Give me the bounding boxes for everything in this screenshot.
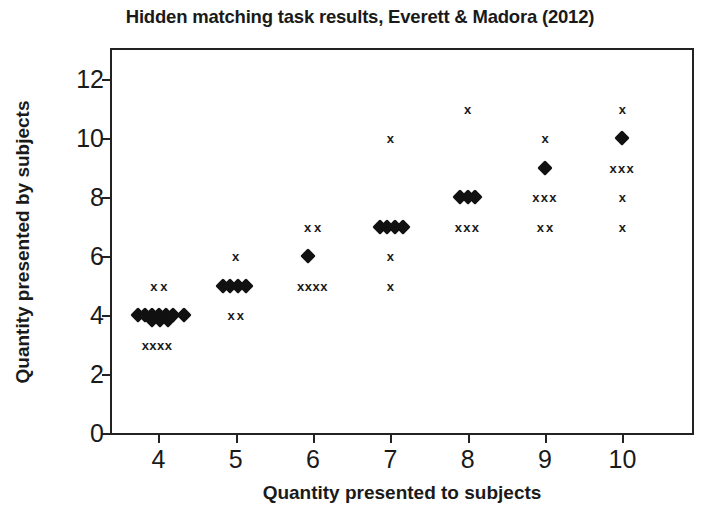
x-axis-tick-mark [622, 433, 624, 443]
data-point-cross: x [618, 161, 625, 174]
data-point-cross: x [157, 338, 164, 351]
y-axis-label-text: Quantity presented by subjects [12, 100, 34, 383]
data-point-cross: x [619, 102, 626, 115]
data-point-cross: x [149, 338, 156, 351]
plot-area: xxxxxxxxxxxxxxxxxxxxxxxxxxxxxxxxxx [112, 50, 692, 433]
data-point-cross: x [237, 309, 244, 322]
y-axis-tick-label: 12 [76, 67, 104, 92]
data-point-cross: x [232, 250, 239, 263]
data-point-cross: x [619, 220, 626, 233]
data-point-cross: x [464, 102, 471, 115]
plot-frame: xxxxxxxxxxxxxxxxxxxxxxxxxxxxxxxxxx 02468… [110, 48, 694, 435]
data-point-cross: x [304, 220, 311, 233]
data-point-cross: x [313, 279, 320, 292]
y-axis-label: Quantity presented by subjects [8, 48, 38, 435]
y-axis-tick-label: 6 [90, 244, 104, 269]
data-point-cross: x [227, 309, 234, 322]
data-point-cross: x [297, 279, 304, 292]
x-axis-tick-label: 7 [383, 447, 397, 472]
data-point-cross: x [387, 250, 394, 263]
data-point-cross: x [387, 132, 394, 145]
data-point-diamond [537, 160, 553, 176]
x-axis-tick-mark [236, 433, 238, 443]
x-axis-label: Quantity presented to subjects [110, 482, 694, 504]
data-point-cross: x [320, 279, 327, 292]
data-point-cross: x [546, 220, 553, 233]
chart-page: Hidden matching task results, Everett & … [0, 0, 720, 516]
data-point-cross: x [627, 161, 634, 174]
y-axis-tick-label: 10 [76, 126, 104, 151]
data-point-diamond [301, 248, 317, 264]
data-point-diamond [615, 131, 631, 147]
x-axis-tick-mark [390, 433, 392, 443]
data-point-cross: x [463, 220, 470, 233]
data-point-cross: x [537, 220, 544, 233]
x-axis-tick-mark [545, 433, 547, 443]
data-point-cross: x [549, 191, 556, 204]
data-point-cross: x [387, 279, 394, 292]
data-point-cross: x [160, 279, 167, 292]
y-axis-tick-label: 4 [90, 303, 104, 328]
data-point-cross: x [541, 132, 548, 145]
data-point-cross: x [532, 191, 539, 204]
data-point-cross: x [165, 338, 172, 351]
x-axis-tick-label: 8 [461, 447, 475, 472]
data-point-cross: x [609, 161, 616, 174]
y-axis-tick-label: 0 [90, 421, 104, 446]
x-axis-tick-mark [468, 433, 470, 443]
data-point-cross: x [472, 220, 479, 233]
data-point-cross: x [455, 220, 462, 233]
x-axis-tick-mark [313, 433, 315, 443]
x-axis-tick-label: 6 [306, 447, 320, 472]
data-point-cross: x [541, 191, 548, 204]
x-axis-tick-label: 9 [538, 447, 552, 472]
x-axis-tick-label: 10 [608, 447, 636, 472]
data-point-cross: x [305, 279, 312, 292]
x-axis-tick-label: 5 [229, 447, 243, 472]
data-point-diamond [176, 307, 192, 323]
chart-title: Hidden matching task results, Everett & … [0, 6, 720, 28]
x-axis-tick-mark [158, 433, 160, 443]
data-point-cross: x [314, 220, 321, 233]
data-point-cross: x [150, 279, 157, 292]
y-axis-tick-label: 8 [90, 185, 104, 210]
data-point-cross: x [619, 191, 626, 204]
data-point-cross: x [142, 338, 149, 351]
x-axis-tick-label: 4 [151, 447, 165, 472]
y-axis-tick-label: 2 [90, 362, 104, 387]
